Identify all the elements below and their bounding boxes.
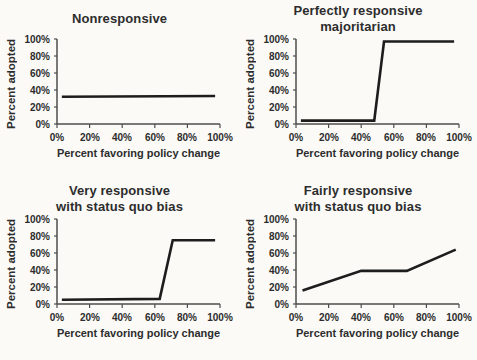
x-tick-label: 20% [319, 312, 339, 323]
x-axis-title: Percent favoring policy change [54, 147, 223, 159]
y-tick-label: 20% [269, 282, 289, 293]
chart-panel-fairly-responsive-status-quo-bias: Fairly responsivewith status quo bias Pe… [239, 180, 477, 360]
chart-title-line: Perfectly responsive [293, 3, 422, 19]
chart-title: Fairly responsivewith status quo bias [239, 180, 477, 218]
y-tick-label: 80% [30, 231, 50, 242]
x-tick-labels: 0%20%40%60%80%100% [293, 132, 462, 146]
y-tick-labels: 100%80%60%40%20%0% [20, 218, 54, 309]
x-axis-title: Percent favoring policy change [293, 147, 462, 159]
y-tick-label: 60% [269, 248, 289, 259]
x-axis-title: Percent favoring policy change [293, 327, 462, 339]
x-tick-label: 40% [112, 312, 132, 323]
y-tick-label: 100% [263, 214, 289, 225]
chart-title-line: Very responsive [69, 183, 170, 199]
y-tick-labels: 100%80%60%40%20%0% [259, 38, 293, 129]
x-tick-label: 80% [177, 132, 197, 143]
plot-area [54, 218, 223, 309]
y-tick-label: 100% [24, 34, 50, 45]
y-tick-label: 0% [36, 119, 50, 130]
y-tick-label: 20% [30, 282, 50, 293]
x-tick-label: 100% [207, 132, 233, 143]
y-axis-title: Percent adopted [241, 218, 259, 309]
y-tick-label: 0% [275, 119, 289, 130]
x-tick-label: 0% [50, 132, 64, 143]
x-tick-label: 80% [416, 312, 436, 323]
y-tick-label: 40% [30, 85, 50, 96]
y-tick-label: 20% [269, 102, 289, 113]
chart-body: Percent adopted 100%80%60%40%20%0% [2, 38, 239, 129]
chart-title-line: with status quo bias [56, 199, 183, 215]
chart-body: Percent adopted 100%80%60%40%20%0% [241, 38, 477, 129]
y-tick-label: 60% [269, 68, 289, 79]
y-tick-label: 100% [263, 34, 289, 45]
y-axis-title: Percent adopted [2, 38, 20, 129]
y-tick-label: 40% [269, 85, 289, 96]
x-tick-label: 80% [416, 132, 436, 143]
x-tick-labels: 0%20%40%60%80%100% [293, 312, 462, 326]
chart-title-line: majoritarian [320, 19, 396, 35]
chart-title: Perfectly responsivemajoritarian [239, 0, 477, 38]
chart-body: Percent adopted 100%80%60%40%20%0% [2, 218, 239, 309]
x-tick-label: 40% [112, 132, 132, 143]
x-tick-label: 100% [446, 132, 472, 143]
data-line [62, 96, 215, 97]
x-tick-labels: 0%20%40%60%80%100% [54, 132, 223, 146]
y-tick-label: 80% [30, 51, 50, 62]
data-line [301, 42, 454, 121]
y-tick-label: 100% [24, 214, 50, 225]
y-axis-title: Percent adopted [2, 218, 20, 309]
x-tick-label: 60% [145, 132, 165, 143]
chart-title-line: Fairly responsive [304, 183, 413, 199]
chart-panel-nonresponsive: Nonresponsive Percent adopted 100%80%60%… [0, 0, 239, 180]
y-tick-label: 40% [30, 265, 50, 276]
chart-title: Very responsivewith status quo bias [0, 180, 239, 218]
y-tick-label: 0% [275, 299, 289, 310]
chart-panel-perfectly-responsive-majoritarian: Perfectly responsivemajoritarian Percent… [239, 0, 477, 180]
y-tick-label: 60% [30, 248, 50, 259]
data-line [303, 250, 456, 291]
y-tick-label: 20% [30, 102, 50, 113]
y-tick-label: 60% [30, 68, 50, 79]
plot-area [293, 218, 462, 309]
chart-title-line: with status quo bias [295, 199, 422, 215]
plot-area [54, 38, 223, 129]
chart-title-line: Nonresponsive [72, 11, 167, 27]
x-tick-label: 40% [351, 312, 371, 323]
x-tick-label: 100% [446, 312, 472, 323]
y-tick-label: 80% [269, 231, 289, 242]
x-axis-title: Percent favoring policy change [54, 327, 223, 339]
x-tick-label: 0% [50, 312, 64, 323]
y-tick-label: 80% [269, 51, 289, 62]
x-tick-label: 60% [384, 132, 404, 143]
x-tick-label: 60% [145, 312, 165, 323]
x-tick-label: 100% [207, 312, 233, 323]
y-tick-labels: 100%80%60%40%20%0% [20, 38, 54, 129]
x-tick-label: 20% [80, 312, 100, 323]
chart-body: Percent adopted 100%80%60%40%20%0% [241, 218, 477, 309]
figure-responsiveness-charts: Nonresponsive Percent adopted 100%80%60%… [0, 0, 477, 360]
x-tick-label: 0% [289, 132, 303, 143]
x-tick-label: 0% [289, 312, 303, 323]
x-tick-label: 60% [384, 312, 404, 323]
chart-panel-very-responsive-status-quo-bias: Very responsivewith status quo bias Perc… [0, 180, 239, 360]
data-line [62, 240, 215, 300]
y-tick-labels: 100%80%60%40%20%0% [259, 218, 293, 309]
chart-title: Nonresponsive [0, 0, 239, 38]
y-tick-label: 0% [36, 299, 50, 310]
x-tick-labels: 0%20%40%60%80%100% [54, 312, 223, 326]
plot-area [293, 38, 462, 129]
x-tick-label: 40% [351, 132, 371, 143]
x-tick-label: 80% [177, 312, 197, 323]
y-tick-label: 40% [269, 265, 289, 276]
x-tick-label: 20% [319, 132, 339, 143]
y-axis-title: Percent adopted [241, 38, 259, 129]
x-tick-label: 20% [80, 132, 100, 143]
